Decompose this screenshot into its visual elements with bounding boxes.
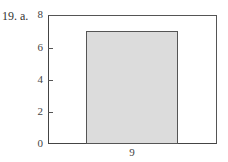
bar-9 (86, 31, 178, 144)
problem-label: 19. a. (2, 9, 28, 24)
y-tick-label-0: 0 (33, 137, 43, 149)
y-tick-label-4: 4 (33, 73, 43, 85)
y-tick-6 (48, 48, 53, 49)
y-tick-label-8: 8 (33, 8, 43, 20)
y-tick-label-2: 2 (33, 105, 43, 117)
x-tick-label: 9 (124, 146, 140, 158)
y-tick-2 (48, 112, 53, 113)
y-tick-4 (48, 80, 53, 81)
y-tick-label-6: 6 (33, 41, 43, 53)
